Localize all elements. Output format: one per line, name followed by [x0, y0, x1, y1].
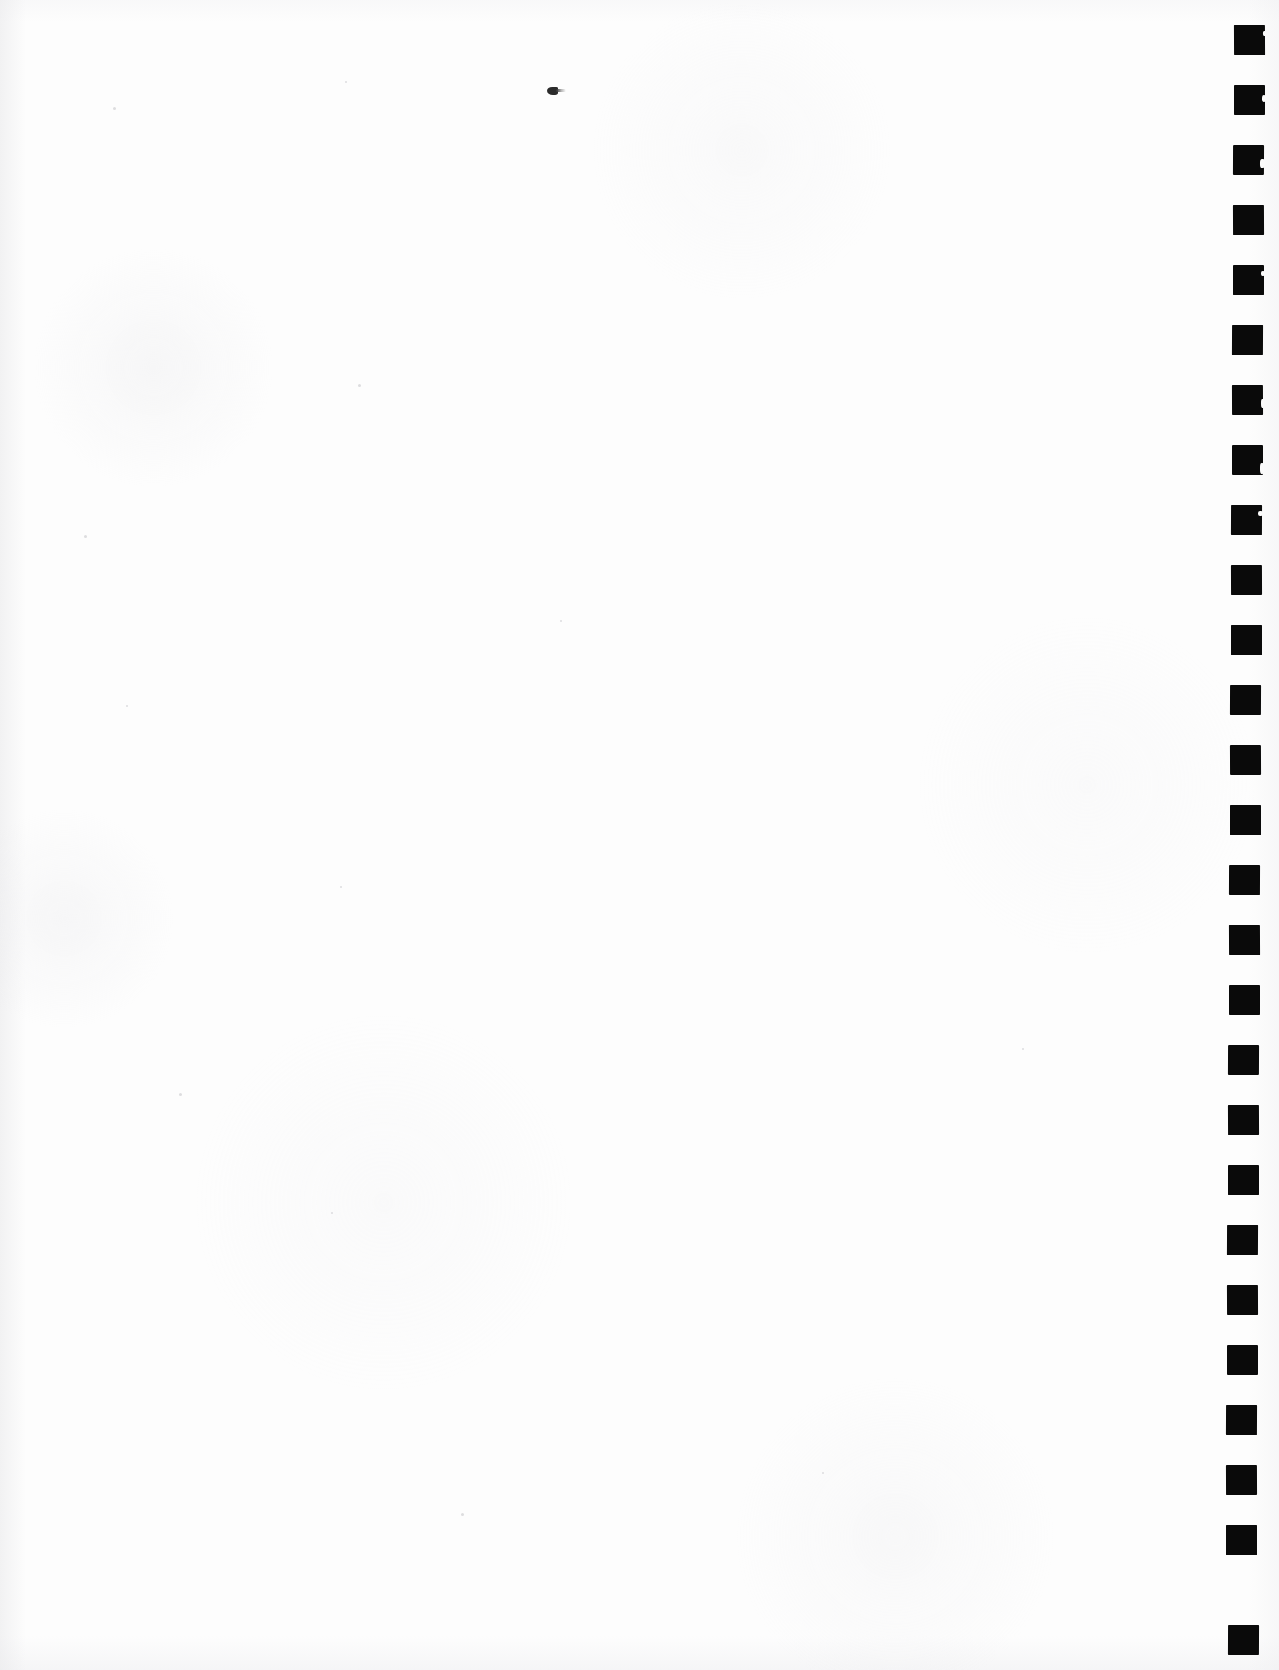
ink-speck [547, 86, 566, 96]
dust-speck [345, 81, 347, 83]
scanned-page [0, 0, 1279, 1670]
registration-mark [1232, 445, 1263, 475]
registration-mark [1231, 505, 1262, 535]
dust-speck [461, 1513, 464, 1516]
registration-mark [1234, 25, 1265, 55]
dust-speck [358, 384, 361, 387]
toner-nick [1260, 159, 1265, 168]
page-content-area [40, 40, 1190, 1620]
registration-mark [1226, 1465, 1257, 1495]
dust-speck [331, 1212, 333, 1214]
dust-speck [179, 1093, 182, 1096]
registration-mark [1230, 805, 1261, 835]
registration-mark [1226, 1525, 1257, 1555]
registration-mark [1228, 1045, 1259, 1075]
toner-nick [1262, 95, 1266, 102]
registration-mark [1228, 1105, 1259, 1135]
registration-mark [1228, 1625, 1259, 1655]
dust-speck [340, 886, 342, 888]
registration-mark [1229, 925, 1260, 955]
toner-nick [1263, 31, 1266, 36]
registration-mark [1227, 1285, 1258, 1315]
registration-mark [1234, 85, 1265, 115]
dust-speck [84, 535, 87, 538]
registration-mark [1233, 145, 1264, 175]
registration-mark [1233, 265, 1264, 295]
registration-mark [1229, 985, 1260, 1015]
registration-mark [1231, 565, 1262, 595]
registration-mark [1233, 205, 1264, 235]
registration-mark [1230, 745, 1261, 775]
registration-mark [1228, 1165, 1259, 1195]
toner-nick [1261, 399, 1264, 408]
ink-speck-tail [556, 89, 566, 92]
registration-mark [1226, 1405, 1257, 1435]
registration-mark [1229, 865, 1260, 895]
registration-mark [1232, 385, 1263, 415]
registration-mark [1230, 685, 1261, 715]
toner-nick [1261, 271, 1265, 276]
registration-mark [1232, 325, 1263, 355]
registration-mark [1227, 1225, 1258, 1255]
dust-speck [126, 705, 128, 707]
toner-nick [1260, 463, 1264, 474]
registration-mark [1227, 1345, 1258, 1375]
dust-speck [113, 107, 116, 110]
registration-mark [1231, 625, 1262, 655]
toner-nick [1258, 511, 1263, 516]
dust-speck [822, 1472, 824, 1474]
dust-speck [560, 620, 562, 622]
dust-speck [1022, 1048, 1024, 1050]
